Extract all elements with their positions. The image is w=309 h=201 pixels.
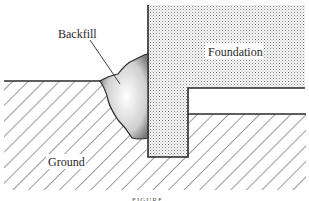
backfill-leader-line: [90, 40, 120, 84]
figure-caption: FIGURE: [132, 196, 163, 201]
ground-label: Ground: [48, 155, 85, 169]
foundation-label: Foundation: [208, 45, 263, 59]
foundation-backfill-diagram: Backfill Foundation Ground FIGURE: [0, 0, 309, 201]
backfill-label: Backfill: [58, 27, 97, 41]
